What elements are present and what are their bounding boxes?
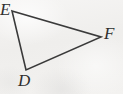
geometry-figure-triangle-def: E F D (0, 0, 123, 94)
vertex-label-f: F (104, 25, 114, 42)
vertex-label-e: E (0, 1, 10, 18)
triangle-outline-def (12, 11, 101, 70)
vertex-label-d: D (18, 72, 30, 89)
